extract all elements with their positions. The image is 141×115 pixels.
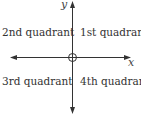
- x-axis-left-arrow-icon: [10, 55, 17, 60]
- y-axis-label: y: [61, 0, 67, 11]
- y-axis-up-arrow-icon: [70, 1, 75, 8]
- x-axis-label: x: [128, 57, 134, 69]
- coordinate-plane-diagram: y x 2nd quadrant 1st quadrant 3rd quadra…: [0, 0, 141, 115]
- quadrant-2-label: 2nd quadrant: [2, 26, 74, 38]
- quadrant-4-label: 4th quadrant: [80, 75, 141, 87]
- y-axis-down-arrow-icon: [70, 107, 75, 114]
- quadrant-1-label: 1st quadrant: [80, 26, 141, 38]
- axes-graphic: [0, 0, 141, 115]
- quadrant-3-label: 3rd quadrant: [2, 75, 73, 87]
